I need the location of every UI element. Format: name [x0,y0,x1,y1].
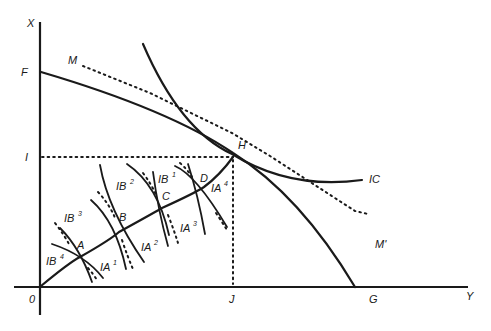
axis-label-X: X [26,17,35,29]
label-IA3: IA 3 [180,220,197,234]
diagram-canvas: X Y 0 F M I H IC M' J G A B C D IB 4 IB … [0,0,491,331]
label-J: J [228,293,235,305]
label-IB2: IB 2 [116,178,134,192]
isoquant-IA2-dotted [122,240,133,269]
label-C: C [162,190,170,202]
svg-text:3: 3 [193,220,197,227]
svg-text:2: 2 [129,178,134,185]
label-IA1: IA 1 [100,259,117,273]
svg-text:IA: IA [180,222,190,234]
label-M: M [68,54,78,66]
label-D: D [200,172,208,184]
isoquant-IA3-dotted [168,215,178,243]
label-IB1: IB 1 [158,171,176,185]
label-H: H [238,139,246,151]
origin-label: 0 [29,293,36,305]
svg-text:4: 4 [60,253,64,260]
isoquant-IB4-dotted [55,223,70,246]
svg-text:IB: IB [64,212,74,224]
svg-text:1: 1 [113,259,117,266]
svg-text:IB: IB [116,180,126,192]
label-F: F [21,66,29,78]
label-IC: IC [369,173,380,185]
svg-text:2: 2 [153,239,158,246]
label-IB4: IB 4 [46,253,64,267]
axis-label-Y: Y [466,290,474,302]
svg-text:IA: IA [100,261,110,273]
indifference-curve [143,44,362,182]
label-IB3: IB 3 [64,210,82,224]
svg-text:3: 3 [78,210,82,217]
label-M-prime: M' [375,238,387,250]
svg-text:1: 1 [172,171,176,178]
label-G: G [369,293,378,305]
label-B: B [119,211,126,223]
isoquant-IA4-dotted [216,213,227,230]
label-I: I [25,151,28,163]
svg-text:IB: IB [46,255,56,267]
svg-text:IB: IB [158,173,168,185]
label-IA2: IA 2 [141,239,158,253]
label-A: A [76,239,84,251]
label-IA4: IA 4 [211,180,228,194]
svg-text:4: 4 [224,180,228,187]
svg-text:IA: IA [141,241,151,253]
svg-text:IA: IA [211,182,221,194]
